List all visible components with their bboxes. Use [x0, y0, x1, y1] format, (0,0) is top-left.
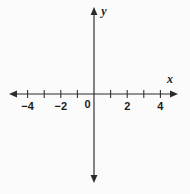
- x-tick-label-minus-2: −2: [55, 100, 68, 112]
- y-axis-top-arrow-icon: [91, 7, 98, 15]
- origin-label-zero: 0: [84, 98, 90, 110]
- x-axis-left-arrow-icon: [9, 91, 17, 98]
- x-axis-label: x: [166, 72, 173, 86]
- coordinate-axes-svg: −4 −2 0 2 4 x y: [0, 0, 190, 194]
- x-tick-label-minus-4: −4: [21, 100, 34, 112]
- x-tick-label-4: 4: [157, 100, 164, 112]
- y-axis-label: y: [99, 4, 107, 18]
- x-axis-right-arrow-icon: [170, 91, 178, 98]
- coordinate-plane-figure: −4 −2 0 2 4 x y: [0, 0, 190, 194]
- y-axis-bottom-arrow-icon: [91, 175, 98, 183]
- x-tick-label-2: 2: [124, 100, 130, 112]
